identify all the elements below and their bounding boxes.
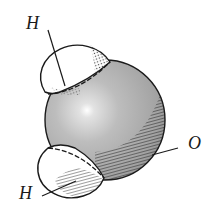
water-molecule-diagram: H O H [0,0,220,215]
label-oxygen: O [188,134,201,152]
label-hydrogen-bottom: H [19,184,32,202]
label-hydrogen-top: H [26,14,39,32]
